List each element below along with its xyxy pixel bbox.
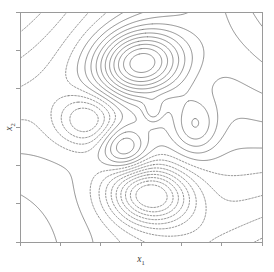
contour-plot-figure: x1 x2 [0,0,274,272]
contour-line-negative [106,164,206,236]
contour-line-positive [111,132,141,159]
contour-line-negative [20,12,115,153]
contour-line-positive [116,138,134,154]
contour-line-positive [253,12,262,26]
contour-line-negative [126,178,179,216]
contour-line-negative [99,160,262,242]
contour-line-positive [181,101,209,139]
y-axis-label: x2 [4,123,16,131]
contour-line-negative [20,12,67,58]
contour-line-negative [90,154,262,242]
contour-line-negative [210,217,262,242]
contour-line-negative [255,238,262,242]
contour-line-positive [225,12,262,62]
contour-line-positive [124,48,162,77]
contour-line-positive [20,194,57,242]
contour-line-positive [20,154,93,242]
contour-line-negative [116,171,189,224]
contour-line-negative [61,102,104,138]
plot-frame [20,12,262,242]
contour-line-positive [114,41,173,86]
contour-line-positive [77,12,262,166]
x-axis-label: x1 [136,254,144,266]
contour-line-negative [20,12,42,32]
contour-line-negative [70,108,98,132]
plot-canvas: x1 x2 [0,0,274,272]
contour-line-positive [130,54,155,73]
contour-line-negative [136,185,167,208]
contour-line-positive [192,119,199,128]
axes-frame [16,12,262,246]
contour-line-negative [51,95,110,144]
axis-labels: x1 x2 [4,123,145,265]
contour-lines-group [20,12,262,242]
contour-line-positive [118,44,167,81]
